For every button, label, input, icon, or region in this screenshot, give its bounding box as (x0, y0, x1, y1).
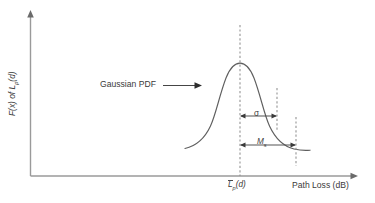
gaussian-pdf-curve (185, 63, 310, 150)
y-axis-label-subscript: p (13, 82, 19, 85)
x-axis-arrowhead (351, 173, 359, 180)
gaussian-pdf-callout-label: Gaussian PDF (100, 80, 156, 89)
margin-label-subscript: s (264, 142, 267, 148)
sigma-measure-arrow-right (272, 113, 278, 118)
margin-label-prefix: M (257, 137, 264, 146)
mean-label-suffix: (d) (236, 180, 246, 189)
figure-canvas (0, 0, 375, 203)
margin-measure-arrow-left (240, 142, 246, 147)
path-loss-gaussian-figure: F(x) of Lp(d) Path Loss (dB) Gaussian PD… (0, 0, 375, 203)
gaussian-pdf-callout-arrowhead (195, 82, 203, 89)
y-axis-arrowhead (27, 10, 34, 18)
mean-value-label: Lp(d) (228, 180, 246, 191)
sigma-measure-arrow-left (240, 113, 246, 118)
x-axis-label: Path Loss (dB) (292, 181, 349, 190)
y-axis-label-prefix: F(x) of L (7, 85, 17, 116)
margin-label: Ms (257, 138, 267, 148)
margin-measure-arrow-right (291, 142, 297, 147)
sigma-label: σ (254, 110, 259, 118)
y-axis-label-suffix: (d) (7, 71, 17, 81)
